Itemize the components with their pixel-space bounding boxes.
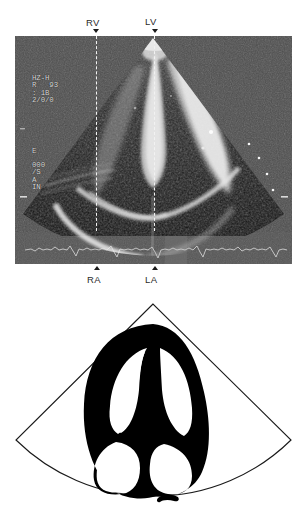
arrow-up-icon: [94, 266, 100, 270]
arrow-down-icon: [93, 29, 99, 33]
echo-marker-label-la: LA: [145, 274, 157, 285]
echo-panel: RV LV RA LA: [0, 0, 307, 292]
echo-marker-label-ra: RA: [87, 274, 101, 285]
arrow-down-icon: [152, 29, 158, 33]
caliper-line-right-chambers: [96, 36, 97, 231]
echocardiography-figure: RV LV RA LA: [0, 0, 307, 522]
arrow-up-icon: [152, 266, 158, 270]
machine-overlay-text-top: HZ-H R 93 : 1B 2/0/0: [32, 75, 58, 104]
caliper-line-left-chambers: [154, 36, 155, 231]
echo-marker-label-lv: LV: [145, 16, 157, 27]
heart-schematic-panel: IVS RV LV RA LA: [0, 300, 307, 522]
machine-overlay-text-mid: E: [32, 148, 36, 155]
heart-schematic-render: [0, 300, 307, 522]
machine-overlay-text-bottom: 000 /S A IN: [32, 162, 45, 191]
echo-marker-label-rv: RV: [86, 17, 100, 28]
